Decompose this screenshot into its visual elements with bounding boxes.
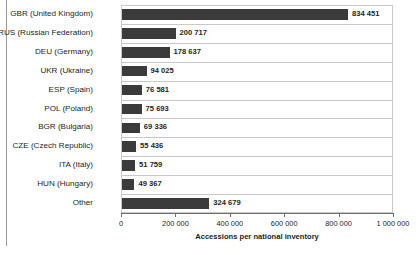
bar-chart: GBR (United Kingdom)834 451RUS (Russian … — [0, 0, 419, 255]
bar — [121, 141, 136, 152]
category-label: ITA (Italy) — [59, 156, 93, 175]
chart-row: CZE (Czech Republic)55 436 — [0, 137, 394, 156]
gridline — [121, 156, 393, 157]
bar-cell: 178 637 — [121, 43, 393, 62]
chart-rows: GBR (United Kingdom)834 451RUS (Russian … — [0, 5, 394, 213]
bar-value-label: 178 637 — [170, 43, 201, 62]
x-axis-line — [121, 213, 393, 214]
x-tick-label: 200 000 — [162, 219, 189, 228]
x-tick — [284, 213, 285, 217]
bar-cell: 94 025 — [121, 62, 393, 81]
bar-cell: 55 436 — [121, 137, 393, 156]
bar — [121, 104, 142, 115]
chart-row: GBR (United Kingdom)834 451 — [0, 5, 394, 24]
bar-value-label: 834 451 — [348, 5, 379, 24]
gridline — [121, 62, 393, 63]
bar — [121, 66, 147, 77]
bar — [121, 160, 135, 171]
x-tick — [121, 213, 122, 217]
gridline — [121, 118, 393, 119]
bar-value-label: 51 759 — [135, 156, 162, 175]
category-label: POL (Poland) — [44, 100, 93, 119]
x-tick — [339, 213, 340, 217]
gridline — [121, 100, 393, 101]
chart-row: UKR (Ukraine)94 025 — [0, 62, 394, 81]
chart-row: Other324 679 — [0, 194, 394, 213]
bar — [121, 179, 134, 190]
x-tick-label: 800 000 — [325, 219, 352, 228]
bar-value-label: 200 717 — [176, 24, 207, 43]
bar-cell: 75 693 — [121, 100, 393, 119]
category-label: ESP (Spain) — [49, 81, 93, 100]
x-axis-title: Accessions per national inventory — [121, 232, 393, 241]
x-tick — [230, 213, 231, 217]
bar-value-label: 75 693 — [142, 100, 169, 119]
category-label: Other — [73, 194, 93, 213]
bar-cell: 76 581 — [121, 81, 393, 100]
gridline — [121, 175, 393, 176]
category-label: UKR (Ukraine) — [40, 62, 93, 81]
gridline — [121, 194, 393, 195]
bar-cell: 200 717 — [121, 24, 393, 43]
bar-value-label: 55 436 — [136, 137, 163, 156]
x-tick-label: 0 — [119, 219, 123, 228]
bar-cell: 834 451 — [121, 5, 393, 24]
chart-row: HUN (Hungary)49 367 — [0, 175, 394, 194]
bar — [121, 85, 142, 96]
bar-cell: 49 367 — [121, 175, 393, 194]
gridline — [121, 43, 393, 44]
bar-cell: 69 336 — [121, 118, 393, 137]
figure: GBR (United Kingdom)834 451RUS (Russian … — [0, 0, 419, 255]
category-label: RUS (Russian Federation) — [0, 24, 93, 43]
bar-value-label: 94 025 — [147, 62, 174, 81]
chart-row: BGR (Bulgaria)69 336 — [0, 118, 394, 137]
bar-value-label: 49 367 — [134, 175, 161, 194]
x-tick-label: 1 000 000 — [377, 219, 410, 228]
category-label: GBR (United Kingdom) — [10, 5, 93, 24]
chart-row: POL (Poland)75 693 — [0, 100, 394, 119]
bar — [121, 28, 176, 39]
chart-row: DEU (Germany)178 637 — [0, 43, 394, 62]
category-label: DEU (Germany) — [35, 43, 93, 62]
bar-cell: 51 759 — [121, 156, 393, 175]
chart-row: ESP (Spain)76 581 — [0, 81, 394, 100]
category-label: CZE (Czech Republic) — [12, 137, 93, 156]
chart-row: RUS (Russian Federation)200 717 — [0, 24, 394, 43]
bar — [121, 9, 348, 20]
bar — [121, 47, 170, 58]
x-tick — [393, 213, 394, 217]
bar-value-label: 69 336 — [140, 118, 167, 137]
gridline — [121, 137, 393, 138]
bar-value-label: 324 679 — [209, 194, 240, 213]
chart-row: ITA (Italy)51 759 — [0, 156, 394, 175]
category-label: BGR (Bulgaria) — [38, 118, 93, 137]
category-label: HUN (Hungary) — [37, 175, 93, 194]
gridline — [121, 24, 393, 25]
x-tick-label: 600 000 — [271, 219, 298, 228]
x-tick — [175, 213, 176, 217]
bar-value-label: 76 581 — [142, 81, 169, 100]
bar — [121, 123, 140, 134]
x-tick-label: 400 000 — [216, 219, 243, 228]
bar — [121, 198, 209, 209]
bar-cell: 324 679 — [121, 194, 393, 213]
gridline — [121, 81, 393, 82]
